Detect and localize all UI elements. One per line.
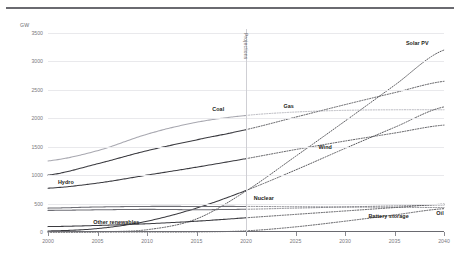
x-axis-tick-label: 2020 (240, 238, 252, 244)
series-label-nuclear: Nuclear (254, 195, 274, 201)
x-axis-tick-mark (246, 232, 247, 236)
series-line-wind-historical (48, 190, 246, 230)
y-axis-tick-label: 500 (34, 201, 43, 207)
y-axis-tick-label: 2500 (31, 87, 43, 93)
x-axis-tick-mark (48, 232, 49, 236)
y-axis-tick-label: 3000 (31, 58, 43, 64)
series-line-hydro-historical (48, 159, 246, 189)
x-axis-tick-mark (98, 232, 99, 236)
x-axis-tick-label: 2000 (42, 238, 54, 244)
series-line-wind-projection (246, 107, 444, 191)
series-line-other-renewables-historical (48, 218, 246, 227)
series-line-hydro-projection (246, 125, 444, 159)
series-line-battery-storage-projection (246, 209, 444, 231)
series-label-battery-storage: Battery storage (368, 213, 408, 219)
y-axis-tick-label: 1000 (31, 172, 43, 178)
projection-divider-line (246, 29, 247, 232)
series-line-oil-historical (48, 206, 246, 208)
x-axis-tick-label: 2035 (389, 238, 401, 244)
series-label-solar-pv: Solar PV (406, 40, 429, 46)
x-axis-tick-label: 2025 (290, 238, 302, 244)
series-line-oil-projection (246, 206, 444, 207)
series-line-gas-projection (246, 81, 444, 129)
y-axis-tick-label: 0 (40, 229, 43, 235)
y-axis-tick-label: 2000 (31, 115, 43, 121)
series-label-hydro: Hydro (58, 179, 74, 185)
series-line-gas-historical (48, 130, 246, 175)
plot-area: 0500100015002000250030003500200020052010… (48, 33, 444, 232)
series-label-other-renewables: Other renewables (93, 219, 139, 225)
x-axis-tick-label: 2030 (339, 238, 351, 244)
series-line-coal-historical (48, 115, 246, 160)
y-axis-tick-label: 3500 (31, 30, 43, 36)
x-axis-tick-mark (444, 232, 445, 236)
header-divider-rule (6, 7, 454, 9)
x-axis-tick-mark (197, 232, 198, 236)
x-axis-tick-mark (296, 232, 297, 236)
x-axis-tick-label: 2005 (92, 238, 104, 244)
x-axis-tick-label: 2040 (438, 238, 450, 244)
series-line-solar-pv-projection (246, 50, 444, 191)
series-label-wind: Wind (319, 144, 332, 150)
x-axis-tick-mark (147, 232, 148, 236)
x-axis-tick-label: 2015 (191, 238, 203, 244)
series-label-gas: Gas (283, 103, 293, 109)
series-label-oil: Oil (436, 210, 443, 216)
x-axis-tick-mark (345, 232, 346, 236)
series-label-coal: Coal (212, 106, 224, 112)
series-line-nuclear-historical (48, 209, 246, 210)
y-axis-tick-label: 1500 (31, 144, 43, 150)
y-axis-unit-label: GW (20, 22, 29, 28)
chart-root: GW 0500100015002000250030003500200020052… (0, 0, 460, 260)
projections-annotation: Projections (243, 33, 249, 59)
x-axis-tick-mark (395, 232, 396, 236)
series-line-coal-projection (246, 110, 444, 116)
x-axis-tick-label: 2010 (141, 238, 153, 244)
